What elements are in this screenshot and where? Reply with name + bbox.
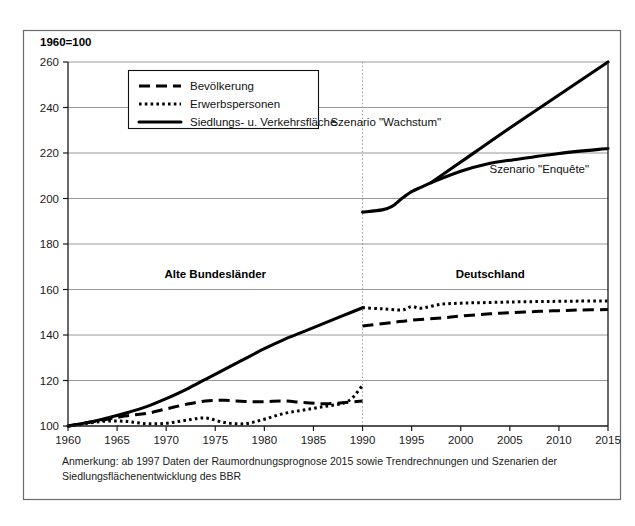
xtick-label-1995: 1995 xyxy=(399,434,425,446)
xtick-label-1975: 1975 xyxy=(202,434,228,446)
ytick-label-160: 160 xyxy=(40,284,59,296)
xtick-label-1960: 1960 xyxy=(55,434,81,446)
axis-title: 1960=100 xyxy=(40,36,92,48)
xtick-label-2015: 2015 xyxy=(595,434,621,446)
legend-label-0: Bevölkerung xyxy=(190,80,254,92)
note-line-0: Anmerkung: ab 1997 Daten der Raumordnung… xyxy=(62,455,558,467)
figure-border xyxy=(24,31,621,500)
ytick-label-260: 260 xyxy=(40,56,59,68)
xtick-label-1980: 1980 xyxy=(252,434,278,446)
ytick-label-120: 120 xyxy=(40,375,59,387)
ytick-label-100: 100 xyxy=(40,420,59,432)
xtick-label-2010: 2010 xyxy=(546,434,572,446)
scenario-label-1: Szenario "Enquête" xyxy=(489,163,589,175)
xtick-label-1985: 1985 xyxy=(301,434,327,446)
ytick-label-200: 200 xyxy=(40,193,59,205)
ytick-label-140: 140 xyxy=(40,329,59,341)
xtick-label-2005: 2005 xyxy=(497,434,523,446)
scenario-label-0: Szenario "Wachstum" xyxy=(330,116,441,128)
note-line-1: Siedlungsflächenentwicklung des BBR xyxy=(62,470,242,482)
xtick-label-1970: 1970 xyxy=(153,434,179,446)
ytick-label-220: 220 xyxy=(40,147,59,159)
xtick-label-2000: 2000 xyxy=(448,434,474,446)
chart-figure: 1960=100 100120140160180200220240260 196… xyxy=(0,0,635,526)
legend-label-1: Erwerbspersonen xyxy=(190,98,280,110)
chart-legend: BevölkerungErwerbspersonenSiedlungs- u. … xyxy=(129,71,337,129)
xtick-label-1990: 1990 xyxy=(350,434,376,446)
ytick-label-180: 180 xyxy=(40,238,59,250)
region-label-0: Alte Bundesländer xyxy=(164,268,266,280)
legend-label-2: Siedlungs- u. Verkehrsfläche xyxy=(190,116,336,128)
region-label-1: Deutschland xyxy=(456,268,525,280)
xtick-label-1965: 1965 xyxy=(104,434,130,446)
ytick-label-240: 240 xyxy=(40,102,59,114)
